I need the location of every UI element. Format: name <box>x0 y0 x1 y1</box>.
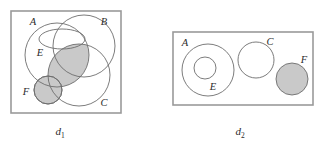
label-A-d2: A <box>181 37 189 48</box>
label-C-d1: C <box>100 97 108 108</box>
label-A-d1: A <box>29 16 37 27</box>
label-E-d1: E <box>36 47 44 58</box>
panel-d1-caption: d1 <box>55 125 65 140</box>
venn-diagram-figure: A B E C F d1 A E C F d2 <box>0 0 326 145</box>
label-F-d1: F <box>22 86 30 97</box>
panel-d2-caption: d2 <box>235 125 245 140</box>
panel-d2-caption-subscript: 2 <box>241 131 245 140</box>
label-B-d1: B <box>101 16 108 27</box>
panel-d2: A E C F d2 <box>173 32 313 140</box>
panel-d1: A B E C F d1 <box>11 11 121 140</box>
figure-canvas: A B E C F d1 A E C F d2 <box>0 0 326 145</box>
label-E-d2: E <box>209 81 217 92</box>
label-C-d2: C <box>266 36 274 47</box>
label-F-d2: F <box>300 54 308 65</box>
panel-d1-caption-subscript: 1 <box>61 131 65 140</box>
circle-F <box>276 63 308 95</box>
